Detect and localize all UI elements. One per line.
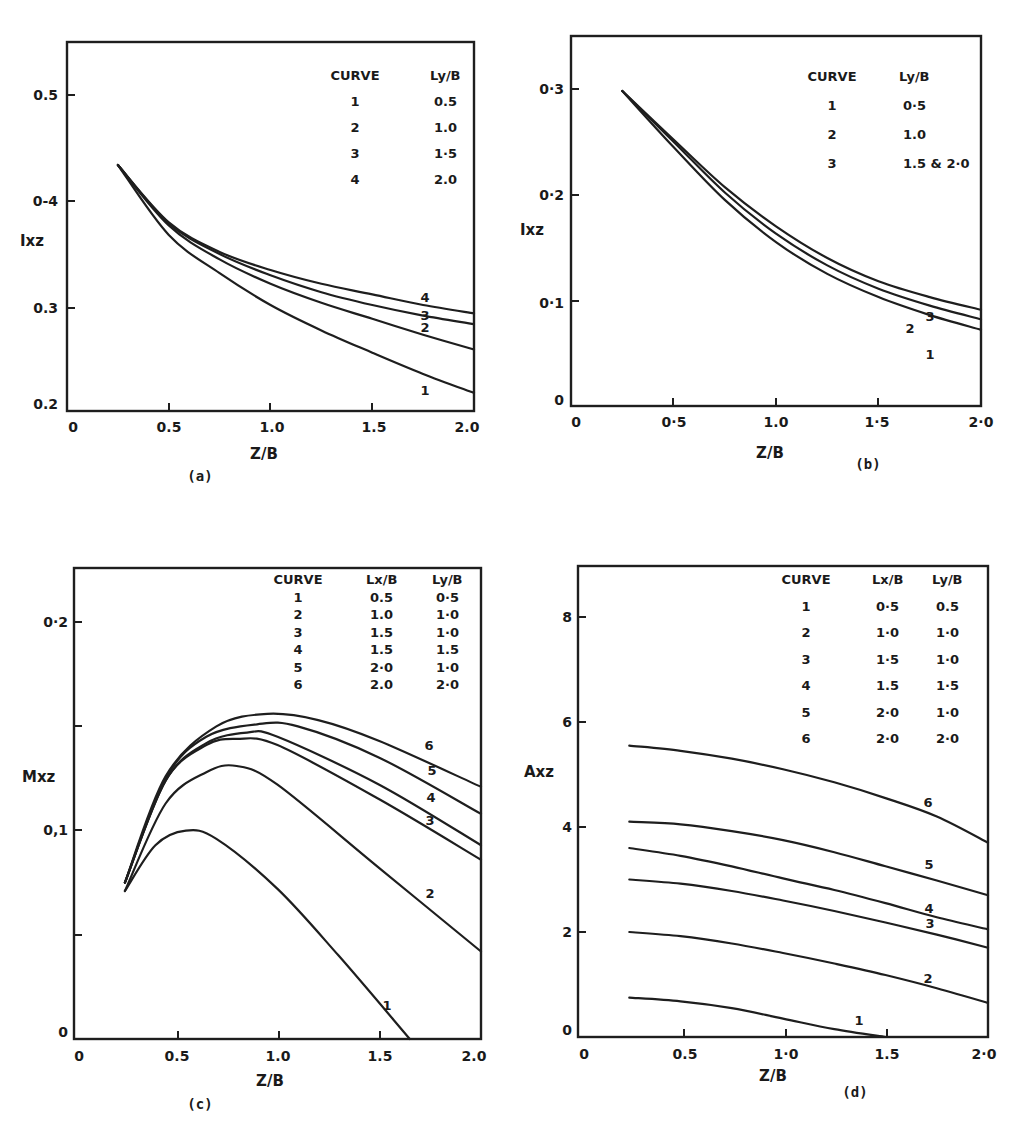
plot-frame <box>74 568 481 1039</box>
x-tick-label: 1.5 <box>362 419 387 435</box>
legend-cell: 2 <box>293 607 302 622</box>
legend-cell: 4 <box>801 678 810 693</box>
y-tick-label: 2 <box>562 924 572 940</box>
y-axis-label: Ixz <box>520 221 544 239</box>
legend-cell: 1·0 <box>436 625 459 640</box>
y-tick-label: 0·2 <box>539 187 564 203</box>
y-tick-label: 6 <box>562 714 572 730</box>
curve-label: 6 <box>424 738 433 753</box>
curve-2 <box>629 932 988 1003</box>
legend-cell: 1·0 <box>436 660 459 675</box>
curve-label: 1 <box>925 347 934 362</box>
legend-cell: 2 <box>350 120 359 135</box>
legend-cell: 1·0 <box>936 705 959 720</box>
curve-label: 5 <box>924 857 933 872</box>
legend-cell: 1.0 <box>434 120 457 135</box>
x-axis-label: Z/B <box>756 444 784 462</box>
chart-panel-b: 0 0·5 1.0 1·5 2·0 0 0·1 0·2 0·3 Ixz Z/B … <box>520 36 994 472</box>
legend-cell: 1·5 <box>936 678 959 693</box>
legend-cell: 3 <box>293 625 302 640</box>
x-tick-label: 0 <box>571 414 581 430</box>
x-ticks <box>673 398 878 406</box>
legend-cell: 2·0 <box>876 731 899 746</box>
legend-cell: CURVE <box>781 572 830 587</box>
panel-label: (a) <box>187 468 212 484</box>
y-tick-label: 4 <box>562 819 572 835</box>
legend-cell: Ly/B <box>432 572 463 587</box>
x-tick-label: 1·5 <box>865 414 890 430</box>
curves: 123456 <box>629 746 988 1037</box>
curve-label: 3 <box>925 916 934 931</box>
x-axis-label: Z/B <box>759 1067 787 1085</box>
legend-cell: 5 <box>293 660 302 675</box>
x-tick-label: 1.0 <box>260 419 285 435</box>
legend-cell: 1 <box>827 98 836 113</box>
curve-label: 4 <box>420 290 429 305</box>
chart-panel-d: 0 0.5 1·0 1.5 2·0 0 2 4 6 8 Axz Z/B (d) … <box>524 566 997 1100</box>
legend-cell: 1·0 <box>876 625 899 640</box>
y-ticks <box>578 617 586 932</box>
curve-1 <box>622 91 981 330</box>
x-tick-label: 2·0 <box>969 414 994 430</box>
legend-cell: 1 <box>801 599 810 614</box>
legend-cell: CURVE <box>807 69 856 84</box>
curve-label: 2 <box>923 971 932 986</box>
y-tick-label: 0.5 <box>33 87 58 103</box>
legend-cell: 5 <box>801 705 810 720</box>
legend-cell: 2 <box>801 625 810 640</box>
figure-canvas: 0 0.5 1.0 1.5 2.0 0.2 0.3 0-4 0.5 Ixz Z/… <box>0 0 1013 1129</box>
curve-2 <box>622 91 981 319</box>
legend-cell: 1.5 & 2·0 <box>903 156 969 171</box>
panel-label: (b) <box>855 456 880 472</box>
legend-cell: 1·5 <box>434 146 457 161</box>
panel-label: (d) <box>842 1084 867 1100</box>
legend-cell: 1.5 <box>876 678 899 693</box>
curves: 1234 <box>118 165 474 398</box>
legend-cell: Ly/B <box>430 68 461 83</box>
legend-cell: 1.5 <box>370 625 393 640</box>
y-tick-label: 0-4 <box>33 193 59 209</box>
legend-cell: 1·0 <box>936 652 959 667</box>
curve-1 <box>118 165 474 393</box>
legend-cell: CURVE <box>330 68 379 83</box>
curve-1 <box>629 998 885 1037</box>
legend-cell: 0·5 <box>876 599 899 614</box>
legend-table: CURVELy/B10.521.031·542.0 <box>330 68 460 187</box>
legend-cell: 1.0 <box>903 127 926 142</box>
curve-label: 4 <box>426 790 435 805</box>
legend-cell: 6 <box>801 731 810 746</box>
legend-cell: 1.5 <box>370 642 393 657</box>
x-tick-label: 1.0 <box>266 1048 291 1064</box>
y-tick-label: 0·2 <box>43 614 68 630</box>
panel-label: (c) <box>187 1096 212 1112</box>
y-tick-label: 0.3 <box>33 300 58 316</box>
curve-label: 6 <box>923 795 932 810</box>
x-tick-label: 2·0 <box>972 1046 997 1062</box>
legend-cell: 0.5 <box>936 599 959 614</box>
x-axis-label: Z/B <box>256 1072 284 1090</box>
curve-6 <box>629 746 988 843</box>
curve-1 <box>125 830 410 1039</box>
x-axis-label: Z/B <box>250 445 278 463</box>
legend-cell: Lx/B <box>872 572 903 587</box>
legend-cell: 2·0 <box>436 677 459 692</box>
legend-cell: 4 <box>350 172 359 187</box>
x-tick-label: 1.5 <box>875 1046 900 1062</box>
x-tick-label: 2.0 <box>462 1048 487 1064</box>
legend-cell: 2.0 <box>434 172 457 187</box>
x-tick-label: 1.0 <box>764 414 789 430</box>
legend-cell: 1.0 <box>370 607 393 622</box>
y-axis-label: Mxz <box>22 768 56 786</box>
curve-label: 1 <box>420 383 429 398</box>
legend-cell: CURVE <box>273 572 322 587</box>
y-axis-label: Ixz <box>20 232 44 250</box>
legend-table: CURVELx/BLy/B10·50.521·01·031·51·041.51·… <box>781 572 962 746</box>
legend-cell: 1.5 <box>436 642 459 657</box>
chart-panel-a: 0 0.5 1.0 1.5 2.0 0.2 0.3 0-4 0.5 Ixz Z/… <box>20 42 480 484</box>
legend-table: CURVELy/B10·521.031.5 & 2·0 <box>807 69 969 171</box>
legend-cell: 2 <box>827 127 836 142</box>
curves: 123 <box>622 91 981 362</box>
legend-cell: 0.5 <box>434 94 457 109</box>
legend-cell: 0.5 <box>370 590 393 605</box>
curve-4 <box>629 848 988 929</box>
